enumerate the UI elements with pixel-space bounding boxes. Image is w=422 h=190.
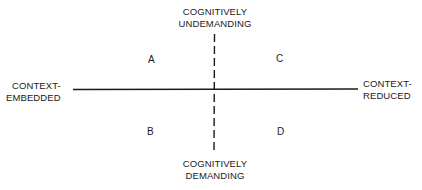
bottom-axis-label-line-1: COGNITIVELY (180, 158, 250, 170)
quadrant-c-label: C (276, 53, 283, 65)
bottom-axis-label: COGNITIVELY DEMANDING (180, 158, 250, 182)
bottom-axis-label-line-2: DEMANDING (180, 170, 250, 182)
top-axis-label-line-2: UNDEMANDING (178, 18, 252, 30)
left-axis-label-line-1: CONTEXT- (6, 80, 66, 92)
quadrant-b-label: B (147, 126, 154, 138)
right-axis-label-line-1: CONTEXT- (363, 78, 421, 90)
horizontal-axis-line (73, 89, 358, 90)
quadrant-a-label: A (148, 54, 155, 66)
top-axis-label-line-1: COGNITIVELY (178, 6, 252, 18)
top-axis-label: COGNITIVELY UNDEMANDING (178, 6, 252, 30)
vertical-axis-dashed-line (214, 34, 215, 153)
right-axis-label-line-2: REDUCED (363, 90, 421, 102)
left-axis-label: CONTEXT- EMBEDDED (6, 80, 66, 104)
right-axis-label: CONTEXT- REDUCED (363, 78, 421, 102)
quadrant-d-label: D (277, 126, 284, 138)
left-axis-label-line-2: EMBEDDED (6, 92, 66, 104)
